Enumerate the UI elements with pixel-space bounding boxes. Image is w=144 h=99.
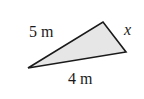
side-label-x: x (124, 22, 131, 38)
side-label-5m: 5 m (29, 24, 53, 40)
side-label-4m: 4 m (68, 71, 92, 87)
